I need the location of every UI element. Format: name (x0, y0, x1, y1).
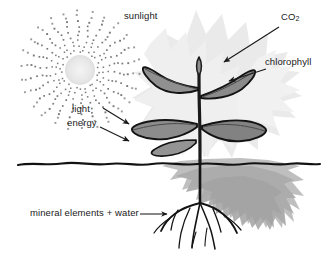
apical-bud (197, 57, 202, 76)
photosynthesis-diagram: sunlight CO2 chlorophyll light energy mi… (0, 0, 328, 272)
soil-region (162, 158, 304, 230)
leaf-lower-left (151, 140, 196, 156)
label-energy: energy (67, 118, 97, 128)
label-co2-subscript: 2 (295, 15, 299, 22)
label-light: light (72, 104, 90, 114)
label-mineral-elements-water: mineral elements + water (30, 208, 139, 218)
label-chlorophyll: chlorophyll (265, 57, 312, 67)
plant-stem (199, 74, 200, 164)
arrow-light-energy-lower (100, 127, 129, 141)
label-co2-text: CO (281, 11, 295, 22)
arrow-light-energy-upper (103, 108, 129, 124)
label-sunlight: sunlight (124, 11, 158, 21)
label-co2: CO2 (281, 12, 299, 22)
diagram-canvas (0, 0, 328, 272)
